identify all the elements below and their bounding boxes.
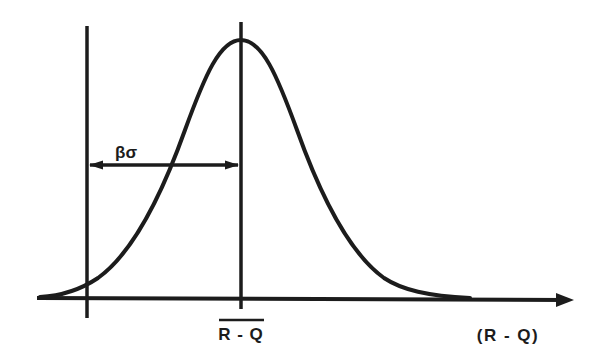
normal-distribution-curve — [40, 40, 470, 298]
mean-label: R - Q — [218, 325, 264, 344]
reliability-diagram: βσ R - Q (R - Q) — [0, 0, 597, 358]
x-axis-arrow-icon — [556, 293, 574, 307]
beta-sigma-label: βσ — [115, 143, 137, 162]
x-axis — [37, 298, 566, 300]
x-axis-label: (R - Q) — [477, 326, 539, 345]
